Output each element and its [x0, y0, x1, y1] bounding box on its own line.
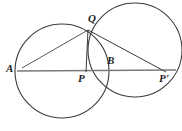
- point-label-a: A: [6, 63, 13, 74]
- geometry-figure: A P B P' Q: [0, 0, 182, 131]
- point-label-b: B: [107, 55, 114, 66]
- baseline-segment: [17, 70, 176, 71]
- point-label-p: P: [78, 73, 85, 84]
- point-label-p-prime: P': [159, 73, 169, 84]
- point-label-q: Q: [88, 13, 96, 24]
